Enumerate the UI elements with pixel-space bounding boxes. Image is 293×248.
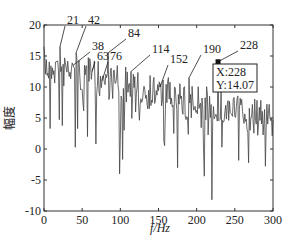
svg-text:21: 21 bbox=[67, 13, 79, 27]
datatip-y: Y:14.07 bbox=[216, 78, 254, 92]
svg-text:84: 84 bbox=[128, 26, 140, 40]
svg-text:0: 0 bbox=[41, 213, 47, 227]
svg-text:76: 76 bbox=[110, 49, 122, 63]
svg-text:100: 100 bbox=[111, 213, 129, 227]
svg-text:10: 10 bbox=[29, 80, 41, 94]
svg-text:190: 190 bbox=[203, 42, 221, 56]
svg-text:152: 152 bbox=[170, 52, 188, 66]
svg-text:50: 50 bbox=[76, 213, 88, 227]
svg-text:-5: -5 bbox=[31, 173, 41, 187]
svg-text:63: 63 bbox=[97, 49, 109, 63]
x-axis-label: f/Hz bbox=[150, 221, 170, 235]
svg-text:250: 250 bbox=[226, 213, 244, 227]
svg-text:228: 228 bbox=[240, 38, 258, 52]
datatip-x: X:228 bbox=[216, 65, 246, 79]
svg-text:20: 20 bbox=[29, 18, 41, 32]
svg-text:114: 114 bbox=[152, 42, 170, 56]
svg-text:300: 300 bbox=[264, 213, 282, 227]
spectrum-chart: 050100150200250300-10-505101520 21423863… bbox=[0, 0, 293, 248]
svg-text:200: 200 bbox=[188, 213, 206, 227]
svg-text:-10: -10 bbox=[25, 204, 41, 218]
svg-text:42: 42 bbox=[88, 13, 100, 27]
svg-text:15: 15 bbox=[29, 49, 41, 63]
y-axis-label: 幅度 bbox=[2, 106, 17, 130]
svg-text:5: 5 bbox=[35, 111, 41, 125]
svg-text:0: 0 bbox=[35, 142, 41, 156]
